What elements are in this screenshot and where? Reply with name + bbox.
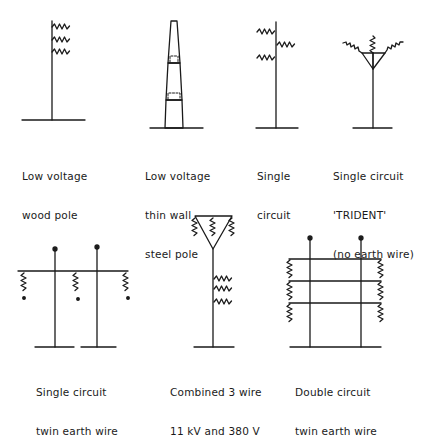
label-double: Double circuit twin earth wire [295, 360, 377, 439]
label-twin-earth: Single circuit twin earth wire [36, 360, 118, 439]
lv-wood-pole-drawing [22, 21, 85, 120]
insulator-icon [52, 24, 70, 29]
insulator-icon [52, 49, 70, 54]
label-single: Single circuit [257, 144, 291, 235]
label-trident: Single circuit 'TRIDENT' (no earth wire) [333, 144, 414, 274]
lv-steel-pole-drawing [150, 21, 203, 128]
twin-earth-drawing [18, 245, 129, 347]
trident-drawing [343, 36, 403, 128]
single-circuit-drawing [256, 22, 298, 128]
insulator-icon [52, 37, 70, 42]
label-lv-wood: Low voltage wood pole [22, 144, 87, 235]
label-lv-steel: Low voltage thin wall steel pole [145, 144, 210, 274]
label-combined: Combined 3 wire 11 kV and 380 V [170, 360, 262, 439]
